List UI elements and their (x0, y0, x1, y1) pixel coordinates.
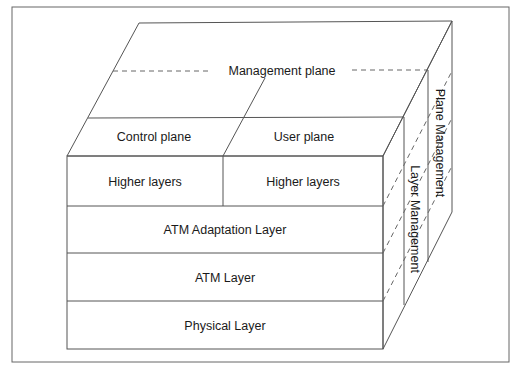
user-plane-label: User plane (274, 130, 334, 144)
aal-label: ATM Adaptation Layer (164, 223, 287, 237)
atm-cube-diagram: Management plane Control plane User plan… (0, 0, 518, 368)
control-plane-label: Control plane (117, 130, 191, 144)
higher-layers-control-label: Higher layers (108, 175, 182, 189)
plane-management-label: Plane Management (433, 89, 447, 198)
higher-layers-user-label: Higher layers (266, 175, 340, 189)
atm-layer-label: ATM Layer (195, 271, 255, 285)
management-plane-label: Management plane (228, 64, 335, 78)
physical-layer-label: Physical Layer (184, 319, 265, 333)
layer-management-label: Layer Management (408, 165, 422, 273)
diagram-frame: Management plane Control plane User plan… (0, 0, 518, 368)
